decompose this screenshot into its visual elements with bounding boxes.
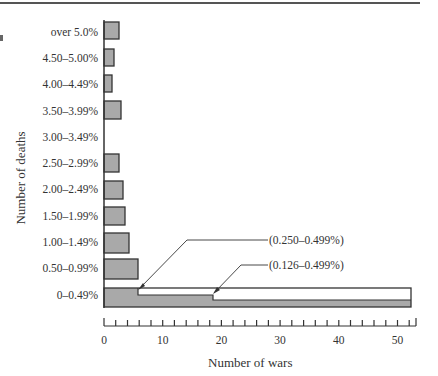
x-tick-label: 40 — [333, 334, 345, 346]
bar-4.00-4.49 — [104, 75, 112, 92]
x-tick-label: 30 — [274, 334, 286, 346]
bar-0.50-0.99 — [104, 259, 138, 279]
x-tick-label: 0 — [101, 334, 107, 346]
y-axis-title: Number of deaths — [13, 131, 28, 224]
x-tick-label: 50 — [392, 334, 404, 346]
bar-1.00-1.49 — [104, 233, 129, 253]
bar-2.50-2.99 — [104, 154, 119, 172]
bar-0-0.49-composite — [104, 288, 411, 307]
bars — [104, 22, 138, 279]
annotation-label: (0.250–0.499%) — [269, 234, 344, 247]
bar-3.50-3.99 — [104, 101, 121, 119]
category-label: 1.50–1.99% — [42, 210, 98, 222]
annotation-label: (0.126–0.499%) — [269, 259, 344, 272]
bar-2.00-2.49 — [104, 181, 123, 199]
category-label: 2.50–2.99% — [42, 157, 98, 169]
histogram-chart: Number of deaths over 5.0% 4.50–5.00% 4.… — [0, 0, 438, 376]
x-axis-title: Number of wars — [208, 355, 292, 370]
category-label: 3.50–3.99% — [42, 105, 98, 117]
x-tick-label: 10 — [157, 334, 169, 346]
segment-0.126-0.499 — [213, 288, 411, 300]
segment-0.250-0.499 — [138, 288, 213, 295]
category-labels: over 5.0% 4.50–5.00% 4.00–4.49% 3.50–3.9… — [42, 26, 98, 301]
category-label: 1.00–1.49% — [42, 236, 98, 248]
category-label: 0–0.49% — [57, 289, 99, 301]
x-tick-label: 20 — [216, 334, 228, 346]
x-axis — [104, 318, 416, 326]
category-label: 4.50–5.00% — [42, 52, 98, 64]
category-label: 2.00–2.49% — [42, 183, 98, 195]
bar-1.50-1.99 — [104, 207, 125, 225]
bar-4.50-5.00 — [104, 49, 114, 66]
category-label: 0.50–0.99% — [42, 262, 98, 274]
category-label: 3.00–3.49% — [42, 131, 98, 143]
x-tick-labels: 0 10 20 30 40 50 — [101, 334, 403, 346]
category-label: over 5.0% — [51, 26, 99, 38]
bar-over-5 — [104, 22, 119, 39]
category-label: 4.00–4.49% — [42, 78, 98, 90]
